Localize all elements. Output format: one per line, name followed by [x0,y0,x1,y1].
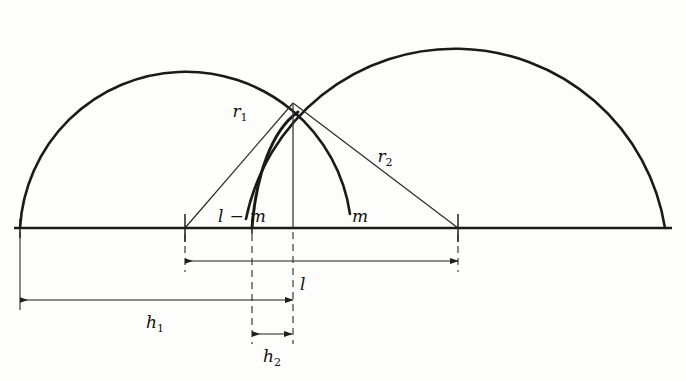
label-h2-base: h [263,346,274,366]
label-h1: h1 [146,312,164,335]
right-semicircle-arc [246,49,665,228]
label-m: m [352,206,368,226]
label-l-minus-m-left: l [218,206,223,226]
label-l: l [300,274,305,294]
label-h2-sub: 2 [274,356,281,369]
label-l-minus-m: l−m [218,206,266,226]
label-r2: r2 [377,146,392,169]
label-r1: r1 [232,101,247,124]
extension-lines [20,232,458,344]
arc-group [20,49,665,228]
figure-canvas: r1 r2 l−m m l h1 h2 [0,0,686,381]
label-l-minus-m-operator: − [229,206,243,226]
geometry-diagram: r1 r2 l−m m l h1 h2 [0,0,686,381]
label-r2-sub: 2 [386,156,393,169]
label-l-minus-m-right: m [250,206,266,226]
label-r1-sub: 1 [241,111,248,124]
radius-group [185,103,458,228]
label-h1-sub: 1 [157,322,164,335]
label-h1-base: h [146,312,157,332]
left-semicircle-arc [20,72,350,228]
label-group: r1 r2 l−m m l h1 h2 [146,101,393,369]
label-h2: h2 [263,346,281,369]
r2-radius-line [293,103,458,228]
